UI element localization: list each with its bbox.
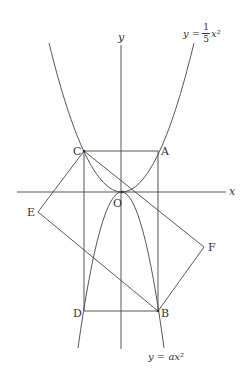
point-f-label: F bbox=[208, 242, 216, 253]
parabola-upper bbox=[49, 43, 194, 192]
upper-curve-numerator: 1 bbox=[202, 23, 210, 32]
lower-curve-label: y = ax² bbox=[148, 352, 184, 362]
point-d-label: D bbox=[73, 308, 82, 319]
diagram-svg bbox=[0, 0, 249, 378]
figure: y x O C A E F D B y = 1 5 x² y = ax² bbox=[0, 0, 249, 378]
point-a-label: A bbox=[161, 146, 169, 157]
upper-curve-denominator: 5 bbox=[202, 35, 210, 44]
origin-label: O bbox=[113, 198, 122, 209]
point-b-label: B bbox=[161, 308, 169, 319]
upper-curve-lhs: y = bbox=[183, 29, 200, 39]
y-axis-label: y bbox=[118, 32, 124, 43]
upper-curve-rhs: x² bbox=[211, 29, 221, 39]
point-c-label: C bbox=[73, 146, 81, 157]
point-e-label: E bbox=[27, 207, 35, 218]
x-axis-label: x bbox=[229, 186, 235, 197]
